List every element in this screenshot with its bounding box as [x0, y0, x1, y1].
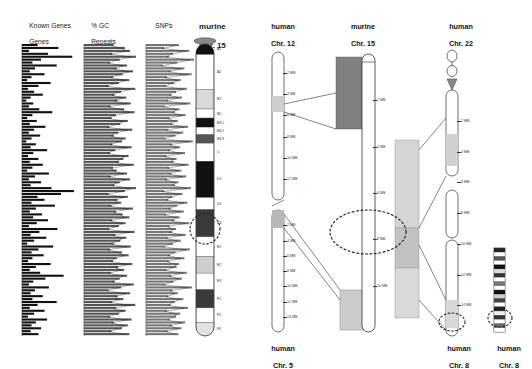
human-chr22-tickmark-3 [457, 213, 461, 214]
human-chr12-tickmark-1 [283, 94, 287, 95]
human-chr22-tick-4: 10 MB [461, 242, 471, 246]
synteny-block-chr22-upper [395, 140, 419, 228]
human-chr12-tick-4: 10 MB [287, 156, 297, 160]
human-chr5-tickmark-4 [283, 286, 287, 287]
human-chr22-tick-2: 6 MB [461, 180, 469, 184]
human-chr12-tick-1: 4 MB [287, 92, 295, 96]
synteny-diagram [0, 0, 532, 369]
connector-chr22-murine-b [419, 176, 446, 228]
murine-chr15-tickmark-3 [373, 239, 377, 240]
human-chr12-tickmark-2 [283, 115, 287, 116]
human-chr22-tickmark-0 [457, 121, 461, 122]
human-chr22-tick-0: 2 MB [461, 119, 469, 123]
human-chr12-tickmark-4 [283, 158, 287, 159]
human-chr22-tick-3: 8 MB [461, 211, 469, 215]
murine-chr15-tick-1: 4 MB [377, 145, 385, 149]
connector-chr8-murine [419, 245, 446, 300]
chr8-right-band-group [494, 248, 505, 332]
human-chr5-tick-0: 2 MB [287, 223, 295, 227]
human-chr22-tick-5: 12 MB [461, 273, 471, 277]
human-chr5-tickmark-6 [283, 317, 287, 318]
human-chr12-tickmark-5 [283, 179, 287, 180]
human-chr12-tick-3: 8 MB [287, 135, 295, 139]
human-chr5-tickmark-3 [283, 271, 287, 272]
murine-chr15-tickmark-4 [373, 286, 377, 287]
human-chr5-tick-6: 14 MB [287, 315, 297, 319]
human-chr5-tickmark-2 [283, 256, 287, 257]
synteny-block-chr22-lower [395, 228, 419, 268]
human-chr5-tickmark-5 [283, 302, 287, 303]
figure-root: Known Genes Genes % GC Repeats SNPs muri… [0, 0, 532, 369]
human-chr5-tick-2: 6 MB [287, 254, 295, 258]
murine-chr15-tickmark-2 [373, 193, 377, 194]
human-chr12-tick-5: 12 MB [287, 177, 297, 181]
human-chr22-tick-1: 4 MB [461, 150, 469, 154]
murine-chr15-tickmark-1 [373, 147, 377, 148]
connector-chr22-murine [419, 118, 446, 150]
human-chr5-tick-5: 12 MB [287, 300, 297, 304]
human-chr12-tickmark-0 [283, 73, 287, 74]
connector-chr8-murine-b [419, 300, 446, 330]
synteny-block-chr12-upper [336, 57, 362, 129]
human-chr22-tickmark-5 [457, 275, 461, 276]
ideogram-human-chr12 [272, 52, 284, 200]
chr22-satellite-icon [447, 50, 457, 62]
murine-chr15-tick-0: 2 MB [377, 98, 385, 102]
synteny-block-chr8-lower [395, 268, 419, 318]
murine-chr15-tick-2: 6 MB [377, 191, 385, 195]
murine-chr15-tick-3: 8 MB [377, 237, 385, 241]
human-chr5-tick-3: 8 MB [287, 269, 295, 273]
ideogram-human-chr12-band [272, 96, 284, 112]
human-chr12-tick-0: 2 MB [287, 71, 295, 75]
murine-chr15-tickmark-0 [373, 100, 377, 101]
synteny-block-chr5-lower [340, 290, 364, 330]
murine-chr15-tick-4: 10 MB [377, 284, 387, 288]
human-chr12-tick-2: 6 MB [287, 113, 295, 117]
human-chr22-tickmark-2 [457, 182, 461, 183]
human-chr5-tickmark-0 [283, 225, 287, 226]
human-chr22-tick-6: 14 MB [461, 303, 471, 307]
connector-chr12-chr5 [272, 200, 284, 206]
human-chr22-tickmark-4 [457, 244, 461, 245]
chr22-centromere-icon [447, 79, 457, 90]
human-chr5-tick-1: 4 MB [287, 239, 295, 243]
human-chr22-tickmark-6 [457, 305, 461, 306]
ideogram-human-chr22-mid [446, 190, 458, 238]
human-chr5-tickmark-1 [283, 241, 287, 242]
human-chr12-tickmark-3 [283, 137, 287, 138]
human-chr5-tick-4: 10 MB [287, 284, 297, 288]
ideogram-human-chr22-upper-band [446, 134, 458, 166]
human-chr22-tickmark-1 [457, 152, 461, 153]
chr22-satellite2-icon [447, 66, 457, 77]
